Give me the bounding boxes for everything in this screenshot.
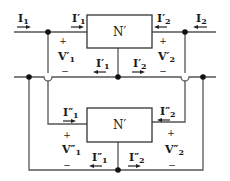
network-top: N′: [87, 15, 152, 48]
label-I1-dprime-return: I″1: [92, 151, 108, 165]
node-top-left: [45, 29, 51, 35]
arrow-left-icon: [89, 164, 102, 168]
label-I2-prime-return: I′2: [133, 57, 147, 71]
middle-wire: [14, 77, 216, 81]
label-I1-prime-return: I′1: [96, 57, 110, 71]
plus-V2-prime: +: [159, 36, 167, 46]
minus-V1-prime: −: [61, 66, 69, 76]
plus-V2-dprime: +: [167, 128, 175, 138]
node-top-right: [182, 29, 188, 35]
label-V2-prime: V′2: [157, 50, 175, 64]
node-bottom-center: [115, 167, 121, 173]
label-I2-prime-in: I′2: [157, 12, 171, 26]
plus-V1-prime: +: [59, 36, 67, 46]
label-I2-dprime-in: I″2: [160, 105, 176, 119]
node-mid-right: [200, 74, 206, 80]
label-V2-dprime: V″2: [164, 143, 184, 157]
wires: [14, 32, 216, 170]
network-bottom: N′: [87, 108, 152, 142]
two-port-parallel-circuit: N′ N′ I1 I2: [0, 0, 230, 181]
label-I2: I2: [196, 12, 207, 26]
label-V1-dprime: V″1: [61, 143, 81, 157]
label-I1-dprime-in: I″1: [63, 106, 79, 120]
network-label-bottom: N′: [113, 118, 127, 132]
label-V1-prime: V′1: [57, 50, 75, 64]
node-mid-left: [26, 74, 32, 80]
node-mid-center: [115, 74, 121, 80]
minus-V2-prime: −: [159, 66, 167, 76]
minus-V2-dprime: −: [168, 160, 176, 170]
minus-V1-dprime: −: [63, 160, 71, 170]
label-I2-dprime-return: I″2: [129, 151, 145, 165]
network-label-top: N′: [113, 25, 127, 39]
plus-V1-dprime: +: [63, 130, 71, 140]
label-I1-prime-in: I′1: [72, 12, 86, 26]
label-I1: I1: [18, 12, 29, 26]
